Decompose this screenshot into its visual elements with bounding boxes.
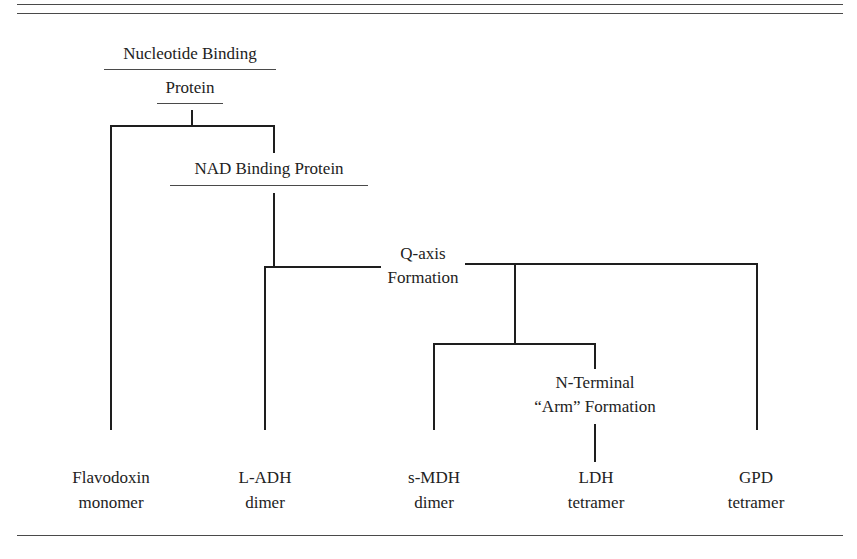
root-label-line2: Protein [150, 77, 230, 99]
nad-underline [170, 185, 368, 186]
qaxis-label-line2: Formation [380, 267, 466, 289]
leaf-ldh-name: LDH [550, 467, 642, 489]
top-rule-2 [17, 13, 843, 14]
nterm-branch [594, 343, 596, 369]
top-rule-1 [17, 4, 843, 5]
ladh-branch [264, 266, 266, 430]
qaxis-bar-left [264, 266, 381, 268]
qaxis-label-line1: Q-axis [380, 243, 466, 265]
root-bar [110, 125, 275, 127]
mdh-ldh-bar [433, 343, 596, 345]
leaf-gpd-state: tetramer [710, 492, 802, 514]
nad-stem [273, 193, 275, 267]
qaxis-stem [514, 263, 516, 345]
root-underline-2 [157, 103, 223, 104]
root-stem [191, 110, 193, 126]
smdh-branch [433, 343, 435, 430]
nad-label: NAD Binding Protein [170, 158, 368, 180]
ldh-branch [594, 424, 596, 462]
leaf-smdh-name: s-MDH [394, 467, 474, 489]
leaf-smdh-state: dimer [394, 492, 474, 514]
leaf-ldh-state: tetramer [550, 492, 642, 514]
nad-branch [273, 125, 275, 153]
leaf-ladh-state: dimer [225, 492, 305, 514]
gpd-branch [756, 263, 758, 430]
leaf-flavodoxin-name: Flavodoxin [51, 467, 171, 489]
nterm-label-line1: N-Terminal [520, 372, 670, 394]
qaxis-bar-right [465, 263, 758, 265]
root-underline-1 [104, 69, 276, 70]
flavodoxin-branch [110, 125, 112, 430]
nterm-label-line2: “Arm” Formation [520, 396, 670, 418]
bottom-rule [17, 535, 843, 536]
root-label-line1: Nucleotide Binding [104, 43, 276, 65]
leaf-flavodoxin-state: monomer [51, 492, 171, 514]
leaf-gpd-name: GPD [710, 467, 802, 489]
leaf-ladh-name: L-ADH [225, 467, 305, 489]
